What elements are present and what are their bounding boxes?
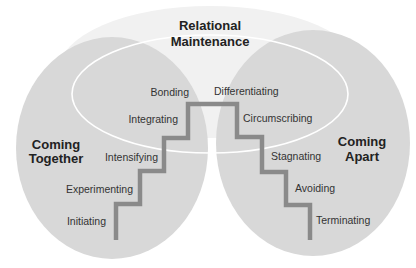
stage-label-stagnating: Stagnating [271, 150, 321, 162]
coming-together-title-line1: Coming [32, 137, 80, 152]
relational-stages-diagram: Relational Maintenance Coming Together C… [0, 0, 416, 268]
maintenance-title-line1: Relational [179, 18, 241, 33]
stage-label-initiating: Initiating [67, 215, 106, 227]
stage-label-experimenting: Experimenting [66, 183, 133, 195]
stage-label-integrating: Integrating [128, 113, 178, 125]
stage-label-bonding: Bonding [150, 86, 189, 98]
stage-label-terminating: Terminating [316, 214, 370, 226]
coming-apart-title-line1: Coming [338, 134, 386, 149]
stage-label-avoiding: Avoiding [295, 182, 335, 194]
maintenance-title-line2: Maintenance [171, 34, 250, 49]
stage-label-intensifying: Intensifying [105, 151, 158, 163]
stage-label-circumscribing: Circumscribing [243, 112, 313, 124]
coming-apart-title-line2: Apart [345, 149, 380, 164]
coming-together-title-line2: Together [29, 151, 84, 166]
stage-label-differentiating: Differentiating [214, 85, 279, 97]
